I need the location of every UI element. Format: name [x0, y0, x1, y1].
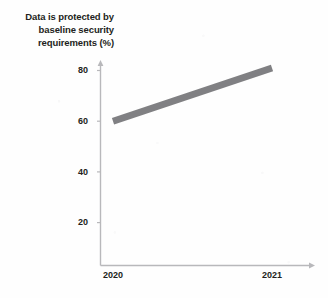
y-axis-tick-label-80: 80 — [62, 65, 88, 75]
y-axis-arrowhead — [98, 60, 104, 66]
y-axis-tick-label-40: 40 — [62, 167, 88, 177]
plot-area — [0, 0, 328, 298]
chart-screenshot: Data is protected by baseline security r… — [0, 0, 328, 298]
data-line-series-1 — [113, 68, 272, 121]
x-axis-arrowhead — [309, 263, 315, 269]
y-axis-tick-label-60: 60 — [62, 116, 88, 126]
x-axis-tick-label-2020: 2020 — [93, 270, 133, 280]
x-axis-tick-label-2021: 2021 — [252, 270, 292, 280]
y-axis-tick-label-20: 20 — [62, 217, 88, 227]
